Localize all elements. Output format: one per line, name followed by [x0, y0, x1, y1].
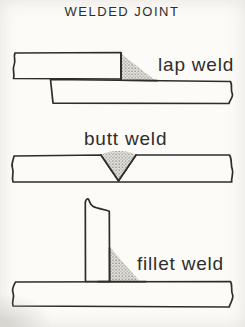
figure-title: WELDED JOINT — [65, 4, 180, 19]
lap-weld-upper-plate — [13, 53, 121, 80]
butt-weld-diagram: butt weld — [12, 128, 233, 182]
butt-weld-label: butt weld — [84, 128, 167, 149]
welded-joint-figure: WELDED JOINT lap weld butt weld fillet w… — [0, 0, 245, 327]
lap-weld-lower-plate — [51, 80, 233, 104]
fillet-weld-vertical-plate — [85, 199, 109, 282]
fillet-weld-label: fillet weld — [137, 253, 224, 274]
fillet-weld-bead — [111, 249, 140, 282]
lap-weld-diagram: lap weld — [13, 53, 234, 104]
lap-weld-bead — [122, 55, 156, 81]
fillet-weld-diagram: fillet weld — [13, 199, 233, 307]
lap-weld-label: lap weld — [158, 54, 234, 75]
fillet-weld-base-plate — [13, 282, 233, 308]
diagram-canvas: WELDED JOINT lap weld butt weld fillet w… — [0, 0, 245, 327]
